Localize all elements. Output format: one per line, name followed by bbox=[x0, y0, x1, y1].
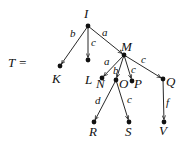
edge-label-I-K: b bbox=[70, 27, 76, 39]
node-label-K: K bbox=[51, 71, 62, 86]
node-label-N: N bbox=[95, 76, 106, 91]
edge-label-I-M: a bbox=[102, 26, 108, 38]
tree-title-label: T = bbox=[8, 55, 27, 70]
node-label-Q: Q bbox=[166, 74, 176, 89]
node-Q bbox=[161, 77, 166, 82]
node-L bbox=[86, 58, 91, 63]
edge-label-M-N: a bbox=[104, 55, 110, 67]
edge-Q-V bbox=[163, 79, 164, 119]
edge-label-I-L: c bbox=[91, 36, 96, 48]
node-label-R: R bbox=[88, 124, 97, 139]
node-I bbox=[86, 24, 91, 29]
edge-label-Q-V: f bbox=[166, 96, 171, 108]
node-label-P: P bbox=[133, 76, 142, 91]
edge-label-O-R: d bbox=[95, 94, 101, 106]
node-O bbox=[114, 78, 119, 83]
node-label-S: S bbox=[125, 124, 132, 139]
edge-label-M-P: c bbox=[131, 63, 136, 75]
node-label-O: O bbox=[119, 76, 129, 91]
node-label-M: M bbox=[120, 39, 133, 54]
edge-label-O-S: c bbox=[127, 93, 132, 105]
edge-label-M-O: b bbox=[113, 64, 119, 76]
node-label-V: V bbox=[159, 123, 169, 138]
node-label-I: I bbox=[83, 6, 89, 21]
edge-label-M-Q: c bbox=[141, 53, 146, 65]
node-K bbox=[58, 64, 63, 69]
node-label-L: L bbox=[84, 72, 92, 87]
tree-diagram: T = bcaabccdcf IKLMNOPQRSV bbox=[0, 0, 185, 147]
